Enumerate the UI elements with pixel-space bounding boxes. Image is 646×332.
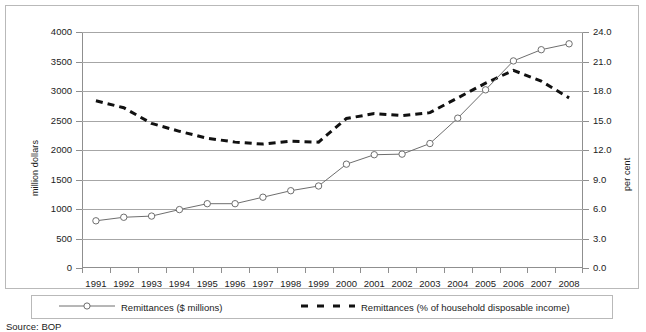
x-tick <box>221 268 222 273</box>
data-point-marker <box>148 213 154 219</box>
y-tick-right <box>583 62 589 63</box>
y-tick-label-left: 4000 <box>26 26 72 37</box>
y-tick-right <box>583 180 589 181</box>
y-tick-label-right: 6.0 <box>593 203 633 214</box>
data-point-marker <box>315 183 321 189</box>
x-tick <box>166 268 167 273</box>
y-tick-label-left: 2500 <box>26 115 72 126</box>
y-tick-label-right: 24.0 <box>593 26 633 37</box>
chart-legend: Remittances ($ millions) Remittances (% … <box>31 295 613 319</box>
y-tick-label-right: 0.0 <box>593 262 633 273</box>
legend-item-remittances-percent: Remittances (% of household disposable i… <box>301 301 570 313</box>
data-point-marker <box>566 41 572 47</box>
legend-item-remittances-dollars: Remittances ($ millions) <box>59 301 222 313</box>
data-point-marker <box>121 214 127 220</box>
x-tick <box>360 268 361 273</box>
x-tick <box>305 268 306 273</box>
plot-area: 05001000150020002500300035004000 0.03.06… <box>82 32 583 268</box>
x-tick <box>500 268 501 273</box>
data-point-marker <box>538 47 544 53</box>
series-lines <box>82 32 583 268</box>
y-tick-label-right: 3.0 <box>593 233 633 244</box>
x-tick <box>555 268 556 273</box>
y-tick-label-right: 18.0 <box>593 85 633 96</box>
y-tick-right <box>583 209 589 210</box>
data-point-marker <box>343 161 349 167</box>
data-point-marker <box>260 194 266 200</box>
legend-label-2: Remittances (% of household disposable i… <box>361 302 570 313</box>
y-tick-label-right: 9.0 <box>593 174 633 185</box>
data-point-marker <box>371 152 377 158</box>
y-tick-label-right: 12.0 <box>593 144 633 155</box>
data-point-marker <box>204 200 210 206</box>
series-line-percent <box>96 70 569 144</box>
y-tick-right <box>583 32 589 33</box>
y-tick-label-right: 21.0 <box>593 56 633 67</box>
data-point-marker <box>510 58 516 64</box>
chart-figure: million dollars per cent 050010001500200… <box>5 5 639 289</box>
y-tick-label-left: 3500 <box>26 56 72 67</box>
x-tick-label: 2008 <box>549 278 589 289</box>
x-tick <box>82 268 83 273</box>
y-tick-label-left: 3000 <box>26 85 72 96</box>
data-point-marker <box>176 206 182 212</box>
x-tick <box>249 268 250 273</box>
data-point-marker <box>455 115 461 121</box>
data-point-marker <box>427 140 433 146</box>
legend-marker-dashed-icon <box>301 301 355 313</box>
x-tick <box>472 268 473 273</box>
legend-marker-solid-circle-icon <box>59 301 115 313</box>
x-tick <box>444 268 445 273</box>
data-point-marker <box>288 188 294 194</box>
y-tick-label-left: 500 <box>26 233 72 244</box>
data-point-marker <box>93 218 99 224</box>
data-point-marker <box>482 87 488 93</box>
x-tick <box>193 268 194 273</box>
y-tick-right <box>583 91 589 92</box>
y-tick-right <box>583 239 589 240</box>
x-tick <box>277 268 278 273</box>
data-point-marker <box>232 200 238 206</box>
x-tick <box>110 268 111 273</box>
y-tick-right <box>583 268 589 269</box>
legend-label-1: Remittances ($ millions) <box>121 302 222 313</box>
y-tick-right <box>583 150 589 151</box>
x-tick <box>582 268 583 273</box>
y-tick-right <box>583 121 589 122</box>
source-note: Source: BOP <box>6 321 61 332</box>
series-line-dollars <box>96 44 569 221</box>
data-point-marker <box>399 151 405 157</box>
x-tick <box>527 268 528 273</box>
y-tick-label-left: 0 <box>26 262 72 273</box>
y-tick-label-left: 1500 <box>26 174 72 185</box>
y-tick-label-left: 1000 <box>26 203 72 214</box>
y-tick-label-right: 15.0 <box>593 115 633 126</box>
y-tick-label-left: 2000 <box>26 144 72 155</box>
x-tick <box>416 268 417 273</box>
x-tick <box>138 268 139 273</box>
x-tick <box>388 268 389 273</box>
x-tick <box>333 268 334 273</box>
